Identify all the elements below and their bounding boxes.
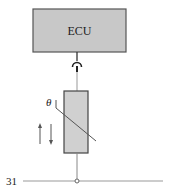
- plug-connector-icon: [73, 63, 82, 73]
- ground-line-31: 31: [6, 175, 163, 187]
- ecu-block: ECU: [33, 9, 126, 52]
- theta-label: θ: [46, 96, 52, 108]
- terminal-31-label: 31: [6, 175, 17, 187]
- temperature-sensor: θ: [46, 91, 96, 153]
- arrow-up-icon: [38, 123, 42, 144]
- arrow-down-icon: [49, 124, 53, 145]
- junction-node: [75, 179, 79, 183]
- circuit-diagram: ECU θ 31: [0, 0, 170, 194]
- ecu-label: ECU: [68, 24, 92, 38]
